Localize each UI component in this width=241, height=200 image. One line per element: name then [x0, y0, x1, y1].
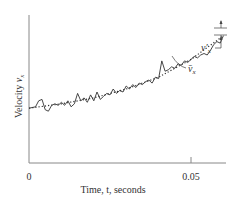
mean-annotation: v̄x [188, 63, 196, 76]
velocity-chart: v̄x v′x 0 0.05 Time, t, seconds Velocity… [0, 0, 241, 200]
x-axis-label: Time, t, seconds [80, 184, 145, 195]
fluct-leader-line [215, 44, 221, 48]
x-tick-label-0.05: 0.05 [182, 171, 200, 182]
y-axis-label: Velocity vx [13, 74, 26, 118]
x-tick-label-0: 0 [27, 171, 32, 182]
fluct-arrowhead-up [220, 20, 223, 24]
fluct-annotation: v′x [201, 42, 212, 55]
